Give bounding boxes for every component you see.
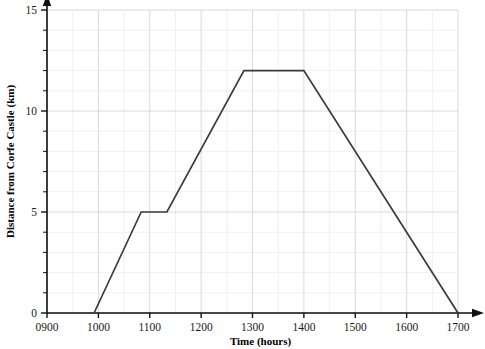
x-tick-label: 1000 <box>87 321 110 333</box>
y-axis-tick-labels: 051015 <box>26 4 38 319</box>
distance-time-chart: 090010001100120013001400150016001700 051… <box>0 0 485 349</box>
y-tick-label: 0 <box>31 307 37 319</box>
x-axis-title: Time (hours) <box>230 335 292 348</box>
axis-ticks <box>41 10 458 318</box>
y-axis-title: Distance from Corfe Castle (km) <box>4 85 17 238</box>
x-tick-label: 1400 <box>292 321 315 333</box>
major-gridlines <box>47 10 458 313</box>
x-tick-label: 1100 <box>138 321 161 333</box>
x-axis-tick-labels: 090010001100120013001400150016001700 <box>36 321 470 333</box>
x-axis-arrowhead <box>472 309 484 317</box>
x-tick-label: 1200 <box>190 321 213 333</box>
x-tick-label: 1300 <box>241 321 264 333</box>
x-tick-label: 1500 <box>344 321 367 333</box>
y-tick-label: 15 <box>26 4 38 16</box>
x-tick-label: 0900 <box>36 321 59 333</box>
x-tick-label: 1700 <box>447 321 470 333</box>
x-tick-label: 1600 <box>395 321 418 333</box>
chart-canvas: 090010001100120013001400150016001700 051… <box>0 0 485 349</box>
y-tick-label: 10 <box>26 105 38 117</box>
axis-lines <box>43 0 484 317</box>
y-axis-arrowhead <box>43 0 51 6</box>
y-tick-label: 5 <box>31 206 37 218</box>
